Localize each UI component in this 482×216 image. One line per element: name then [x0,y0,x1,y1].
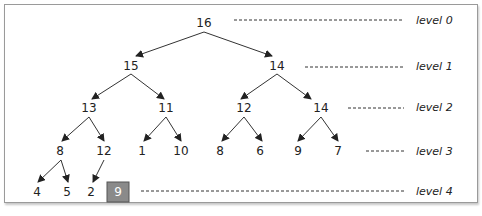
node: 12 [96,144,111,158]
node: 8 [216,144,224,158]
level-label-4: level 4 [416,185,453,198]
node: 7 [334,144,342,158]
node: 14 [269,59,284,73]
level-label-2: level 2 [416,101,453,114]
level-guides [141,20,404,191]
node: 12 [236,101,251,115]
level-label-0: level 0 [416,14,453,27]
node: 5 [63,185,71,199]
node: 8 [56,144,64,158]
level-label-3: level 3 [416,145,453,158]
node: 15 [123,59,138,73]
node: 2 [87,185,95,199]
node: 14 [313,101,328,115]
node: 6 [256,144,264,158]
node: 4 [33,185,41,199]
node: 11 [158,101,173,115]
node: 13 [81,101,96,115]
node: 9 [294,144,302,158]
heap-tree-diagram: level 0 level 1 level 2 level 3 level 4 … [0,0,482,216]
node: 10 [173,144,188,158]
node: 1 [138,144,146,158]
level-label-1: level 1 [416,60,453,73]
node-highlighted: 9 [114,185,122,199]
node-root: 16 [196,16,211,30]
